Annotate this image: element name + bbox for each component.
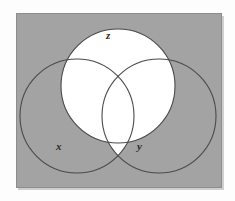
circle-label-y: y: [137, 141, 142, 152]
figure-page: z x y: [0, 0, 235, 201]
page-edge-shadow-right: [222, 16, 224, 190]
circle-label-z: z: [106, 30, 110, 41]
venn-diagram-graphic: [17, 14, 221, 187]
page-edge-shadow-bottom: [18, 188, 224, 190]
venn-diagram-frame: [16, 13, 222, 188]
circle-label-x: x: [56, 141, 62, 152]
